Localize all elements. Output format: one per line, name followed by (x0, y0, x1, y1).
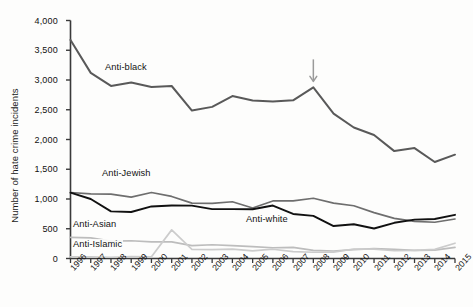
y-tick-label: 2,500 (34, 105, 58, 115)
y-tick-label: 3,000 (34, 75, 58, 85)
y-tick-label: 0 (53, 254, 58, 264)
annotation-arrow-2008 (310, 59, 317, 81)
y-tick-label: 3,500 (34, 45, 58, 55)
y-tick-label: 2,000 (34, 135, 58, 145)
series-label-anti-islamic: Anti-Islamic (72, 239, 123, 249)
y-tick-label: 4,000 (34, 16, 58, 26)
series-label-anti-black: Anti-black (104, 62, 148, 72)
series-line-anti-asian (71, 237, 456, 251)
series-line-anti-black (71, 40, 456, 162)
series-label-anti-white: Anti-white (245, 214, 289, 224)
y-tick-label: 1,000 (34, 194, 58, 204)
series-label-anti-asian: Anti-Asian (72, 219, 117, 229)
y-tick-label: 1,500 (34, 164, 58, 174)
series-label-anti-jewish: Anti-Jewish (101, 168, 152, 178)
y-axis-tick-labels: 05001,0001,5002,0002,5003,0003,5004,000 (0, 0, 58, 307)
figure-hate-crime-line-chart: Number of hate crime incidents 05001,000… (0, 0, 473, 307)
y-tick-label: 500 (42, 224, 58, 234)
